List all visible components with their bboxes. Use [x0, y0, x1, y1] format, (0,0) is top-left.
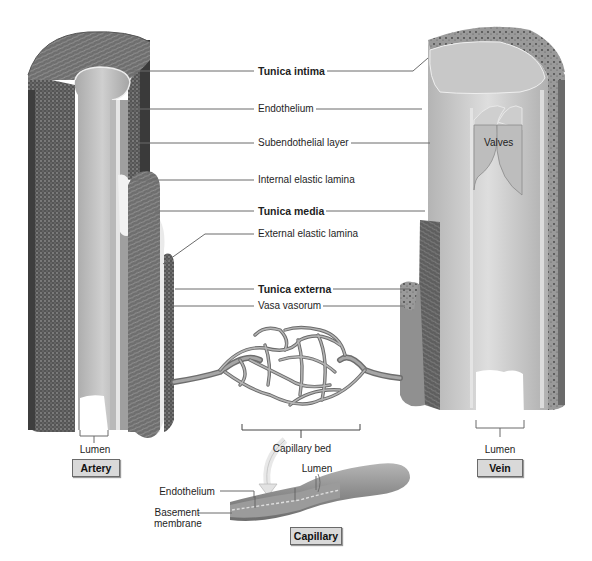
label-external-elastic-lamina: External elastic lamina: [256, 228, 360, 240]
label-capillary-endothelium: Endothelium: [156, 486, 218, 497]
label-endothelium: Endothelium: [256, 103, 316, 115]
label-tunica-media: Tunica media: [256, 205, 326, 217]
capillary-bed-bracket: [242, 424, 360, 438]
label-capillary-bed: Capillary bed: [270, 443, 334, 454]
label-vasa-vasorum: Vasa vasorum: [256, 300, 323, 312]
label-valves: Valves: [482, 137, 515, 149]
capillary-bed-network: [174, 328, 400, 406]
vein-title-box: Vein: [477, 459, 523, 477]
basement-line-2: membrane: [154, 518, 200, 529]
label-tunica-externa: Tunica externa: [256, 283, 333, 295]
label-internal-elastic-lamina: Internal elastic lamina: [256, 174, 357, 186]
vein-cross-section: [400, 27, 565, 420]
label-vein-lumen: Lumen: [483, 444, 517, 455]
artery-title-box: Artery: [72, 459, 120, 477]
label-basement-membrane: Basement membrane: [154, 507, 200, 529]
artery-cross-section: [28, 32, 174, 438]
label-subendothelial-layer: Subendothelial layer: [256, 137, 351, 149]
label-artery-lumen: Lumen: [78, 444, 112, 455]
basement-line-1: Basement: [154, 507, 200, 518]
capillary-title-box: Capillary: [290, 527, 342, 545]
label-tunica-intima: Tunica intima: [256, 65, 327, 77]
label-capillary-lumen: Lumen: [300, 463, 334, 474]
